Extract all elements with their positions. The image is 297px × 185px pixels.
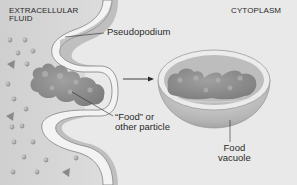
pseudopodium-label: Pseudopodium [107, 27, 170, 37]
food-vacuole [158, 50, 270, 128]
food-vacuole-label: Food vacuole [218, 143, 251, 163]
food-vacuole-label-line2: vacuole [218, 153, 251, 163]
cytoplasm-label: CYTOPLASM [231, 7, 281, 15]
extracellular-fluid-label-line2: FLUID [9, 15, 78, 23]
extracellular-fluid-label: EXTRACELLULAR FLUID [9, 7, 78, 24]
food-particle-label: “Food” or other particle [115, 112, 170, 132]
phagocytosis-diagram: EXTRACELLULAR FLUID CYTOPLASM Pseudopodi… [0, 0, 297, 185]
food-particle-label-line2: other particle [115, 122, 170, 132]
process-arrow [123, 77, 154, 82]
